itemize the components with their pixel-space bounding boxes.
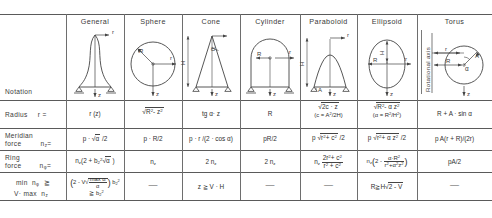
svg-text:R: R	[373, 57, 378, 63]
svg-text:H: H	[299, 62, 305, 66]
shell-formula-table: General Sphere Cone Cylinder Paraboloid …	[0, 0, 492, 218]
svg-text:z: z	[273, 91, 276, 97]
svg-text:r: r	[289, 49, 291, 55]
diagram-cone: α H z	[184, 27, 238, 97]
diagram-cylinder: R r z	[242, 27, 298, 97]
grid-vline-1	[124, 14, 125, 200]
svg-text:A: A	[475, 53, 479, 59]
min-cell-sphere: —	[124, 180, 182, 190]
column-header-paraboloid: Paraboloid	[300, 17, 357, 26]
grid-hline-meridian	[0, 150, 492, 151]
min-cell-paraboloid: —	[300, 180, 357, 190]
row-label-min-line2: V· max nz	[14, 190, 48, 198]
meridian-cell-sphere: p · R/2	[124, 135, 182, 143]
row-label-notation: Notation	[5, 88, 32, 95]
row-label-meridian: Meridian	[5, 132, 33, 139]
svg-text:z: z	[467, 91, 470, 97]
radius-cell-cylinder: R	[240, 110, 300, 118]
grid-vline-6	[417, 14, 418, 200]
grid-hline-notation	[0, 100, 492, 101]
radius-cell-general: r (z)	[66, 110, 124, 118]
column-header-general: General	[66, 17, 124, 26]
grid-hline-bottom	[0, 200, 492, 201]
svg-text:z: z	[215, 91, 218, 97]
row-label-meridian-line2-text: force	[5, 140, 21, 147]
radius-cell-paraboloid: 2c · z (c = A2/2H)	[300, 103, 357, 120]
meridian-cell-paraboloid: p r2+ c2 /2	[300, 134, 357, 142]
meridian-cell-cylinder: pR/2	[240, 135, 300, 143]
torus-axis-bracket	[421, 30, 422, 94]
grid-hline-radius	[0, 128, 492, 129]
svg-text:r: r	[445, 46, 447, 52]
row-label-ring-line2-text: force	[5, 162, 21, 169]
meridian-cell-torus: p A(r + R)/(2r)	[417, 135, 492, 143]
svg-text:R: R	[139, 48, 144, 54]
radius-cell-cone: tg α· z	[182, 110, 240, 118]
svg-text:z: z	[98, 92, 101, 98]
row-label-ring-line1: Ring	[5, 154, 20, 161]
min-cell-general-line2: ≧ b22	[66, 190, 124, 198]
column-header-sphere: Sphere	[124, 17, 182, 26]
svg-text:z: z	[333, 91, 336, 97]
svg-text:z: z	[390, 91, 393, 97]
diagram-general: r z	[68, 27, 122, 97]
radius-cell-torus: R + A · sin α	[417, 110, 492, 118]
row-label-ring: Ring	[5, 154, 20, 161]
svg-text:z: z	[156, 91, 159, 97]
meridian-cell-ellipsoid: p r2+ α z2 /2	[357, 134, 417, 142]
diagram-sphere: R r z	[126, 27, 180, 97]
grid-hline-ring	[0, 172, 492, 173]
svg-text:A: A	[318, 87, 322, 93]
radius-cell-sphere: R2- z2	[124, 108, 182, 116]
grid-vline-0	[66, 14, 67, 200]
ring-cell-torus: pA/2	[417, 158, 492, 166]
row-label-radius-text: Radius	[5, 111, 28, 118]
svg-text:r: r	[347, 32, 349, 38]
svg-text:H: H	[379, 51, 385, 55]
diagram-ellipsoid: H R r z	[359, 27, 415, 97]
radius-cell-ellipsoid: R2- α z2 (α = R2/H2)	[357, 103, 417, 120]
min-cell-ellipsoid: R≧H2 - V	[357, 183, 417, 191]
column-header-torus: Torus	[417, 17, 492, 26]
column-header-cone: Cone	[182, 17, 240, 26]
row-label-radius-symbol: r =	[38, 111, 47, 118]
torus-rotational-axis-label: Rotational axis	[424, 47, 431, 92]
column-header-cylinder: Cylinder	[240, 17, 300, 26]
row-label-ring-symbol: nφ=	[40, 162, 51, 169]
row-label-meridian-line2: force nz=	[5, 140, 51, 148]
min-cell-torus: —	[417, 180, 492, 190]
svg-text:r: r	[405, 56, 407, 62]
row-label-min-line1: min nφ ≧	[16, 179, 50, 187]
min-cell-cylinder: —	[240, 180, 300, 190]
svg-text:H: H	[180, 61, 186, 65]
ring-cell-paraboloid: nz 2r2+ c2r2 + c2	[300, 155, 357, 169]
svg-text:R: R	[257, 51, 262, 57]
meridian-cell-general: p · α /2	[66, 135, 124, 143]
diagram-paraboloid: r H A z	[302, 27, 356, 97]
ring-cell-sphere: nz	[124, 158, 182, 166]
svg-text:α: α	[465, 65, 469, 72]
svg-text:r: r	[170, 55, 172, 61]
meridian-cell-cone: p · r /(2 · cos α)	[182, 135, 240, 143]
ring-cell-cone: 2 nz	[182, 158, 240, 166]
svg-text:r: r	[112, 29, 114, 35]
min-cell-general: (2 - Vmax αα) b22	[66, 176, 124, 189]
ring-cell-ellipsoid: nz(2 - α·R2r2+α2z2)	[357, 155, 417, 169]
ring-cell-general: nz(2 + b22α )	[66, 157, 124, 165]
column-header-ellipsoid: Ellipsoid	[357, 17, 417, 26]
min-cell-cone: z ≧ V · H	[182, 183, 240, 191]
row-label-ring-line2: force nφ=	[5, 162, 51, 170]
row-label-meridian-symbol: nz=	[41, 140, 52, 147]
grid-vline-2	[182, 14, 183, 200]
svg-text:R: R	[446, 58, 451, 64]
row-label-radius: Radius r =	[5, 111, 47, 118]
grid-hline-top	[0, 14, 492, 15]
row-label-meridian-line1: Meridian	[5, 132, 33, 139]
ring-cell-cylinder: 2 nz	[240, 158, 300, 166]
grid-vline-3	[240, 14, 241, 200]
